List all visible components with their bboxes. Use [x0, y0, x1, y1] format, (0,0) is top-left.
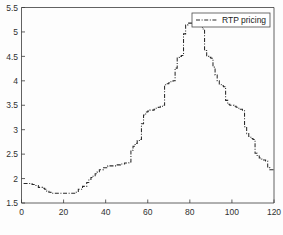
y-tick-label-2: 2 [13, 174, 18, 184]
x-tick-label-0: 0 [19, 207, 24, 217]
rtp-pricing-line-chart: 020406080100120 1.522.533.544.555.5 RTP … [0, 0, 283, 235]
x-tick-label-100: 100 [225, 207, 239, 217]
y-tick-label-5.5: 5.5 [6, 3, 18, 13]
y-tick-label-4.5: 4.5 [6, 52, 18, 62]
y-axis-ticks [22, 8, 26, 204]
y-tick-label-5: 5 [13, 27, 18, 37]
figure-container: 020406080100120 1.522.533.544.555.5 RTP … [0, 0, 283, 235]
x-tick-label-20: 20 [59, 207, 69, 217]
x-tick-label-80: 80 [185, 207, 195, 217]
y-axis-tick-labels: 1.522.533.544.555.5 [6, 3, 18, 209]
y-tick-label-3.5: 3.5 [6, 100, 18, 110]
y-tick-label-3: 3 [13, 125, 18, 135]
x-tick-label-40: 40 [101, 207, 111, 217]
y-tick-label-4: 4 [13, 76, 18, 86]
x-tick-label-120: 120 [267, 207, 281, 217]
legend-entry-label: RTP pricing [222, 15, 266, 25]
x-tick-label-60: 60 [143, 207, 153, 217]
chart-legend[interactable]: RTP pricing [192, 13, 270, 27]
data-series-group [24, 18, 274, 193]
x-axis-tick-labels: 020406080100120 [19, 207, 281, 217]
x-axis-ticks [22, 200, 275, 204]
y-tick-label-2.5: 2.5 [6, 149, 18, 159]
axes-box [22, 8, 275, 204]
axes-frame [22, 8, 275, 204]
y-tick-label-1.5: 1.5 [6, 198, 18, 208]
series-rtp-pricing [24, 18, 274, 193]
